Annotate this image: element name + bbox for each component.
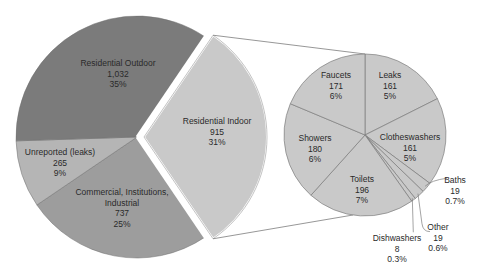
label-residential-indoor: Residential Indoor 915 31% xyxy=(183,116,252,148)
leader-dishwashers xyxy=(412,198,413,232)
label-baths: Baths 19 0.7% xyxy=(444,175,466,207)
label-unreported-leaks: Unreported (leaks) 265 9% xyxy=(25,147,95,179)
label-showers: Showers 180 6% xyxy=(298,133,331,165)
label-commercial: Commercial, Institutions, Industrial 737… xyxy=(75,187,168,229)
connector-top xyxy=(213,35,365,54)
label-leaks: Leaks 161 5% xyxy=(379,70,402,102)
label-clotheswashers: Clotheswashers 161 5% xyxy=(380,132,440,164)
label-other: Other 19 0.6% xyxy=(427,222,448,254)
label-residential-outdoor: Residential Outdoor 1,032 35% xyxy=(80,58,155,90)
label-toilets: Toilets 196 7% xyxy=(350,174,374,206)
label-dishwashers: Dishwashers 8 0.3% xyxy=(373,233,422,265)
label-faucets: Faucets 171 6% xyxy=(321,70,351,102)
